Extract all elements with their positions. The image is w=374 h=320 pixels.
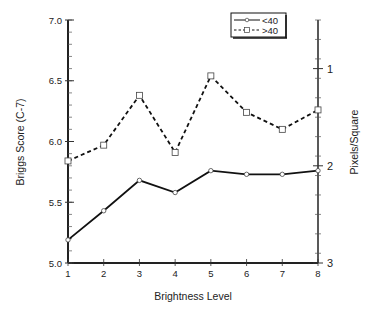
y-tick-label: 7.0 [49, 15, 62, 26]
axes: 5.05.56.06.57.012345678123 [49, 15, 333, 280]
y-axis-label: Briggs Score (C-7) [14, 99, 26, 186]
data-point [137, 178, 141, 182]
data-point [101, 142, 107, 148]
x-tick-label: 7 [280, 268, 285, 279]
chart: 5.05.56.06.57.012345678123 <40>40 Bright… [0, 0, 374, 320]
data-point [315, 107, 321, 113]
data-point [173, 190, 177, 194]
series-group [65, 73, 321, 242]
data-point [66, 238, 70, 242]
y-tick-label: 5.5 [49, 197, 62, 208]
data-point [172, 149, 178, 155]
y2-tick-label: 2 [327, 160, 333, 172]
x-tick-label: 2 [101, 268, 106, 279]
y-tick-label: 6.0 [49, 136, 62, 147]
x-tick-label: 1 [65, 268, 70, 279]
data-point [208, 73, 214, 79]
data-point [209, 168, 213, 172]
data-point [279, 126, 285, 132]
x-tick-label: 5 [208, 268, 213, 279]
legend-label: >40 [262, 25, 278, 36]
data-point [244, 109, 250, 115]
y2-tick-label: 1 [327, 63, 333, 75]
data-point [280, 172, 284, 176]
x-tick-label: 6 [244, 268, 249, 279]
x-tick-label: 8 [315, 268, 320, 279]
y-tick-label: 5.0 [49, 258, 62, 269]
legend: <40>40 [231, 13, 287, 38]
data-point [65, 158, 71, 164]
y2-tick-label: 3 [327, 257, 333, 269]
y2-axis-label: Pixels/Square [348, 109, 360, 174]
x-tick-label: 4 [172, 268, 177, 279]
series-line-lt40 [68, 171, 318, 240]
y-tick-label: 6.5 [49, 75, 62, 86]
data-point [102, 209, 106, 213]
x-axis-label: Brightness Level [154, 290, 232, 302]
legend-marker [245, 28, 250, 33]
x-tick-label: 3 [137, 268, 142, 279]
data-point [136, 92, 142, 98]
data-point [316, 168, 320, 172]
legend-marker [245, 18, 249, 22]
data-point [244, 172, 248, 176]
